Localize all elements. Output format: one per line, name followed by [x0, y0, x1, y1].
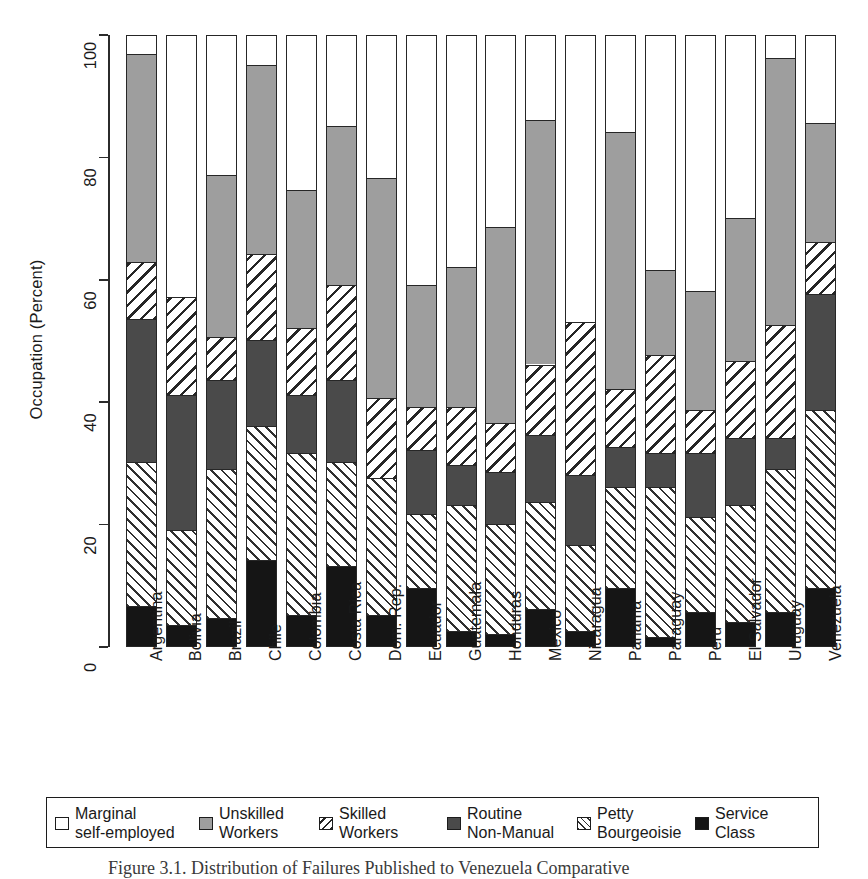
segment-routine-non-manual — [447, 465, 476, 505]
category-label-argentina: Argentina — [148, 661, 149, 662]
segment-petty-bourgeoisie — [407, 514, 436, 587]
segment-unskilled-workers — [766, 58, 795, 324]
legend-item-unskilled[interactable]: Unskilled Workers — [199, 803, 284, 844]
segment-routine-non-manual — [806, 294, 835, 410]
y-tick-mark — [99, 157, 108, 159]
category-label-colombia: Colombia — [307, 661, 308, 662]
legend-item-service[interactable]: Service Class — [695, 803, 768, 844]
bar-el-salvador[interactable] — [725, 35, 756, 647]
y-tick-label: 20 — [93, 525, 94, 526]
segment-petty-bourgeoisie — [167, 530, 196, 625]
legend-label: Skilled Workers — [339, 805, 398, 842]
legend-item-routine[interactable]: Routine Non-Manual — [447, 803, 554, 844]
y-tick-mark — [99, 524, 108, 526]
segment-petty-bourgeoisie — [247, 426, 276, 561]
bar-costa-rica[interactable] — [326, 35, 357, 647]
segment-skilled-workers — [806, 242, 835, 294]
segment-skilled-workers — [127, 262, 156, 319]
category-label-mexico: Mexico — [547, 661, 548, 662]
category-label-bolivia: Bolivia — [187, 661, 188, 662]
legend-item-marginal[interactable]: Marginal self-employed — [55, 803, 175, 844]
bar-peru[interactable] — [685, 35, 716, 647]
legend-item-petty[interactable]: Petty Bourgeoisie — [577, 803, 682, 844]
bar-colombia[interactable] — [286, 35, 317, 647]
segment-marginal-self-employed — [646, 35, 675, 270]
bar-argentina[interactable] — [126, 35, 157, 647]
legend-swatch-icon — [447, 817, 461, 830]
segment-skilled-workers — [247, 254, 276, 340]
bar-uruguay[interactable] — [765, 35, 796, 647]
segment-skilled-workers — [327, 285, 356, 380]
category-label-panama: Panama — [627, 661, 628, 662]
legend-swatch-icon — [319, 817, 333, 830]
bar-venezuela[interactable] — [805, 35, 836, 647]
segment-unskilled-workers — [526, 120, 555, 365]
bar-mexico[interactable] — [525, 35, 556, 647]
segment-unskilled-workers — [606, 132, 635, 389]
y-tick-label: 0 — [93, 647, 94, 648]
segment-skilled-workers — [207, 337, 236, 380]
segment-marginal-self-employed — [127, 35, 156, 54]
segment-marginal-self-employed — [447, 35, 476, 267]
segment-routine-non-manual — [726, 438, 755, 505]
segment-unskilled-workers — [447, 267, 476, 408]
segment-petty-bourgeoisie — [526, 502, 555, 609]
segment-marginal-self-employed — [367, 35, 396, 178]
legend-swatch-icon — [695, 817, 709, 830]
category-label-uruguay: Uruguay — [787, 661, 788, 662]
segment-petty-bourgeoisie — [606, 487, 635, 588]
segment-skilled-workers — [447, 407, 476, 465]
segment-unskilled-workers — [207, 175, 236, 337]
segment-marginal-self-employed — [766, 35, 795, 58]
segment-unskilled-workers — [367, 178, 396, 398]
bar-paraguay[interactable] — [645, 35, 676, 647]
bar-honduras[interactable] — [485, 35, 516, 647]
legend-item-skilled[interactable]: Skilled Workers — [319, 803, 398, 844]
segment-skilled-workers — [407, 407, 436, 450]
legend-swatch-icon — [577, 817, 591, 830]
bar-guatemala[interactable] — [446, 35, 477, 647]
segment-skilled-workers — [606, 389, 635, 447]
segment-unskilled-workers — [646, 270, 675, 356]
category-label-paraguay: Paraguay — [667, 661, 668, 662]
y-tick-label: 40 — [93, 402, 94, 403]
category-label-costa-rica: Costa Rica — [347, 661, 348, 662]
segment-routine-non-manual — [167, 395, 196, 530]
y-tick-label: 80 — [93, 157, 94, 158]
segment-routine-non-manual — [526, 435, 555, 502]
segment-marginal-self-employed — [526, 35, 555, 120]
y-tick-mark — [99, 34, 108, 36]
legend-swatch-icon — [199, 817, 213, 830]
segment-skilled-workers — [367, 398, 396, 478]
segment-marginal-self-employed — [806, 35, 835, 123]
bar-panama[interactable] — [605, 35, 636, 647]
bar-ecuador[interactable] — [406, 35, 437, 647]
segment-unskilled-workers — [486, 227, 515, 423]
segment-skilled-workers — [686, 410, 715, 453]
segment-petty-bourgeoisie — [207, 469, 236, 619]
segment-routine-non-manual — [766, 438, 795, 469]
segment-skilled-workers — [167, 297, 196, 395]
segment-routine-non-manual — [127, 319, 156, 463]
segment-marginal-self-employed — [287, 35, 316, 190]
bar-dom-rep[interactable] — [366, 35, 397, 647]
bar-brazil[interactable] — [206, 35, 237, 647]
y-tick-label: 60 — [93, 280, 94, 281]
segment-skilled-workers — [646, 355, 675, 453]
category-label-brazil: Brazil — [227, 661, 228, 662]
category-label-honduras: Honduras — [507, 661, 508, 662]
bar-bolivia[interactable] — [166, 35, 197, 647]
segment-marginal-self-employed — [167, 35, 196, 297]
segment-routine-non-manual — [287, 395, 316, 453]
segment-marginal-self-employed — [606, 35, 635, 132]
segment-routine-non-manual — [327, 380, 356, 463]
legend-label: Unskilled Workers — [219, 805, 284, 842]
bar-nicaragua[interactable] — [565, 35, 596, 647]
segment-petty-bourgeoisie — [127, 462, 156, 606]
bar-chile[interactable] — [246, 35, 277, 647]
category-label-chile: Chile — [267, 661, 268, 662]
segment-skilled-workers — [486, 423, 515, 472]
y-axis-label: Occupation (Percent) — [27, 220, 46, 460]
segment-marginal-self-employed — [726, 35, 755, 218]
